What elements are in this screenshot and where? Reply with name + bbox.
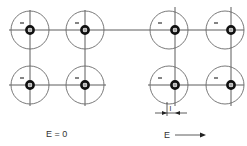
arrowhead-right-icon [162, 111, 167, 115]
panel-unpolarized: E = 0 [9, 10, 124, 139]
displacement-label: l [170, 104, 172, 113]
arrow-right-icon [200, 133, 206, 138]
electric-field-indicator: E [164, 130, 206, 140]
polarization-diagram: E = 0 [0, 0, 247, 146]
displacement-dimension: l [155, 102, 187, 116]
plus-sign-icon [84, 84, 86, 86]
field-zero-label: E = 0 [46, 129, 67, 139]
plus-sign-icon [84, 29, 86, 31]
plus-sign-icon [29, 84, 31, 86]
arrowhead-left-icon [175, 111, 180, 115]
plus-sign-icon [174, 84, 176, 86]
plus-sign-icon [230, 84, 232, 86]
plus-sign-icon [174, 29, 176, 31]
plus-sign-icon [29, 29, 31, 31]
panel-polarized: l E [124, 7, 244, 140]
plus-sign-icon [230, 29, 232, 31]
field-label: E [164, 130, 170, 140]
